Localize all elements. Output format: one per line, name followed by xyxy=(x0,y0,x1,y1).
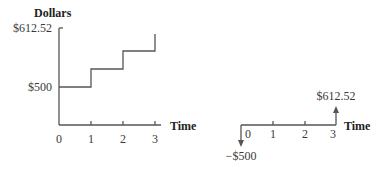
x-tick-label-3: 3 xyxy=(152,132,158,146)
x-axis-label: Time xyxy=(170,119,197,133)
inflow-label: $612.52 xyxy=(317,89,356,103)
x-tick-label-1: 1 xyxy=(88,132,94,146)
timeline-label-0: 0 xyxy=(245,127,251,141)
y-start-label: $500 xyxy=(28,80,52,94)
y-axis-label: Dollars xyxy=(34,6,72,20)
timeline-label-2: 2 xyxy=(302,127,308,141)
balance-step-line xyxy=(59,34,155,87)
arrow-down-icon xyxy=(238,140,244,147)
cash-flow-timeline: $612.52 −$500 0 1 2 3 Time xyxy=(226,89,372,163)
x-tick-label-0: 0 xyxy=(56,132,62,146)
step-chart: Dollars $612.52 $500 Time 0 1 2 3 xyxy=(13,6,197,146)
y-top-label: $612.52 xyxy=(13,21,52,35)
x-tick-label-2: 2 xyxy=(120,132,126,146)
arrow-up-icon xyxy=(333,106,339,113)
diagram-canvas: Dollars $612.52 $500 Time 0 1 2 3 $612.5… xyxy=(0,0,378,171)
timeline-label-3: 3 xyxy=(330,127,336,141)
timeline-label-1: 1 xyxy=(270,127,276,141)
outflow-label: −$500 xyxy=(226,149,257,163)
timeline-axis-label: Time xyxy=(344,119,371,133)
